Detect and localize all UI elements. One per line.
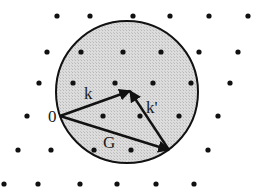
lattice-point — [91, 147, 96, 152]
lattice-point — [153, 181, 158, 186]
lattice-point — [205, 147, 210, 152]
lattice-point — [1, 181, 6, 186]
lattice-point — [24, 113, 29, 118]
lattice-point — [44, 49, 49, 54]
lattice-point — [167, 13, 172, 18]
origin-label: 0 — [48, 107, 57, 126]
lattice-point — [206, 13, 211, 18]
lattice-point — [215, 113, 220, 118]
lattice-point — [196, 49, 201, 54]
lattice-point — [100, 113, 105, 118]
lattice-point — [112, 80, 117, 85]
lattice-point — [188, 80, 193, 85]
lattice-point — [36, 80, 41, 85]
lattice-point — [77, 181, 82, 186]
lattice-point — [35, 181, 40, 186]
lattice-point — [128, 147, 133, 152]
lattice-point — [191, 181, 196, 186]
lattice-point — [54, 13, 59, 18]
lattice-point — [87, 13, 92, 18]
lattice-point — [158, 49, 163, 54]
lattice-point — [150, 80, 155, 85]
lattice-point — [120, 49, 125, 54]
lattice-point — [130, 13, 135, 18]
lattice-point — [227, 80, 232, 85]
vector-label-G: G — [103, 133, 115, 152]
lattice-point — [235, 49, 240, 54]
lattice-point — [78, 49, 83, 54]
lattice-point — [245, 13, 250, 18]
lattice-point — [70, 80, 75, 85]
vector-label-k-prime: k' — [146, 98, 158, 117]
lattice-point — [48, 147, 53, 152]
vector-label-k: k — [84, 84, 93, 103]
lattice-point — [176, 113, 181, 118]
ewald-sphere-diagram: 0 kk'G — [0, 0, 261, 194]
lattice-point — [137, 113, 142, 118]
lattice-point — [114, 181, 119, 186]
lattice-point — [15, 147, 20, 152]
